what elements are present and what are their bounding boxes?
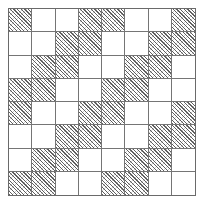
grid-cell bbox=[56, 9, 79, 32]
grid-cell bbox=[56, 125, 79, 148]
grid-cell bbox=[9, 79, 32, 102]
grid-cell bbox=[56, 172, 79, 195]
grid-cell bbox=[125, 149, 148, 172]
grid-cell bbox=[56, 32, 79, 55]
grid-cell bbox=[149, 79, 172, 102]
grid-cell bbox=[79, 149, 102, 172]
grid-cell bbox=[172, 149, 195, 172]
grid-cell bbox=[79, 9, 102, 32]
grid-cell bbox=[32, 56, 55, 79]
grid-cell bbox=[172, 56, 195, 79]
grid-cell bbox=[125, 9, 148, 32]
grid-cell bbox=[56, 79, 79, 102]
grid-cell bbox=[172, 125, 195, 148]
grid-cell bbox=[172, 9, 195, 32]
grid-cell bbox=[9, 149, 32, 172]
grid-cell bbox=[125, 32, 148, 55]
grid-cell bbox=[149, 172, 172, 195]
grid-cell bbox=[32, 32, 55, 55]
grid-cell bbox=[149, 149, 172, 172]
grid-cell bbox=[79, 56, 102, 79]
grid-cell bbox=[102, 56, 125, 79]
grid-cell bbox=[149, 102, 172, 125]
grid-cell bbox=[172, 172, 195, 195]
figure-canvas bbox=[0, 0, 204, 206]
grid-cell bbox=[9, 9, 32, 32]
grid-cell bbox=[32, 9, 55, 32]
grid-cell bbox=[102, 9, 125, 32]
grid-cell bbox=[79, 102, 102, 125]
grid-cell bbox=[149, 9, 172, 32]
grid-cell bbox=[9, 125, 32, 148]
grid-cell bbox=[102, 79, 125, 102]
grid-cell bbox=[149, 32, 172, 55]
grid-cell bbox=[125, 56, 148, 79]
grid-cell bbox=[79, 172, 102, 195]
grid-cell bbox=[172, 79, 195, 102]
grid-cell bbox=[32, 79, 55, 102]
grid-cell bbox=[102, 32, 125, 55]
grid-cell bbox=[79, 125, 102, 148]
grid-cell bbox=[56, 102, 79, 125]
grid-cell bbox=[102, 149, 125, 172]
grid-cell bbox=[79, 32, 102, 55]
grid-cell bbox=[102, 102, 125, 125]
grid-cell bbox=[125, 125, 148, 148]
grid-cell bbox=[9, 56, 32, 79]
grid-cell bbox=[79, 79, 102, 102]
grid-cell bbox=[9, 32, 32, 55]
grid-cell bbox=[56, 56, 79, 79]
grid-cell bbox=[56, 149, 79, 172]
grid-cell bbox=[32, 149, 55, 172]
grid-cell bbox=[32, 102, 55, 125]
grid-cell bbox=[125, 102, 148, 125]
grid-cell bbox=[102, 172, 125, 195]
grid-cell bbox=[149, 125, 172, 148]
grid-cell bbox=[9, 102, 32, 125]
grid-cell bbox=[172, 32, 195, 55]
grid-cell bbox=[32, 125, 55, 148]
grid-cell bbox=[125, 79, 148, 102]
grid-cell bbox=[102, 125, 125, 148]
checkerboard-grid bbox=[8, 8, 196, 196]
grid-cell bbox=[149, 56, 172, 79]
grid-cell bbox=[32, 172, 55, 195]
grid-cell bbox=[125, 172, 148, 195]
grid-cell bbox=[9, 172, 32, 195]
grid-cell bbox=[172, 102, 195, 125]
